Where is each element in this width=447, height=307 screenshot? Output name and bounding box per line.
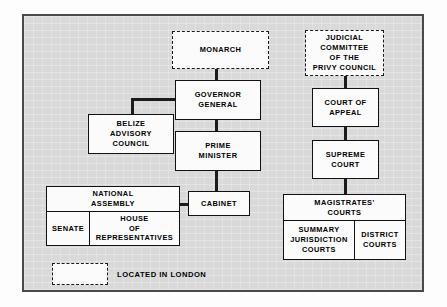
national-assembly-chambers: SENATE HOUSE OF REPRESENTATIVES [47, 212, 179, 245]
connector-belize-advisory-council-horizontal [131, 98, 177, 101]
magistrates-courts-header: MAGISTRATES' COURTS [284, 195, 405, 221]
legend: LOCATED IN LONDON [52, 263, 206, 285]
node-judicial-committee-privy-council[interactable]: JUDICIAL COMMITTEE OF THE PRIVY COUNCIL [305, 30, 384, 76]
node-governor-general-label: GOVERNOR GENERAL [193, 90, 244, 110]
node-prime-minister-label: PRIME MINISTER [197, 141, 240, 161]
node-cabinet-label: CABINET [199, 199, 239, 209]
node-national-assembly[interactable]: NATIONAL ASSEMBLY SENATE HOUSE OF REPRES… [46, 186, 180, 246]
node-belize-advisory-council-label: BELIZE ADVISORY COUNCIL [108, 119, 154, 149]
node-supreme-court-label: SUPREME COURT [324, 150, 368, 170]
national-assembly-header: NATIONAL ASSEMBLY [47, 187, 179, 212]
diagram-frame: MONARCH GOVERNOR GENERAL BELIZE ADVISORY… [22, 14, 424, 292]
legend-label: LOCATED IN LONDON [117, 270, 206, 279]
node-governor-general[interactable]: GOVERNOR GENERAL [175, 80, 261, 120]
division-summary-jurisdiction-courts[interactable]: SUMMARY JURISDICTION COURTS [284, 221, 354, 259]
legend-dashed-swatch [52, 263, 108, 285]
node-magistrates-courts[interactable]: MAGISTRATES' COURTS SUMMARY JURISDICTION… [283, 194, 406, 260]
chamber-house-of-representatives[interactable]: HOUSE OF REPRESENTATIVES [89, 212, 179, 245]
node-court-of-appeal-label: COURT OF APPEAL [322, 98, 368, 118]
connector-judicial-committee-to-court-of-appeal [344, 74, 347, 88]
node-supreme-court[interactable]: SUPREME COURT [312, 140, 379, 179]
node-court-of-appeal[interactable]: COURT OF APPEAL [312, 88, 379, 127]
connector-supreme-court-to-magistrates-courts [344, 178, 347, 194]
connector-governor-general-to-prime-minister [215, 118, 218, 132]
node-monarch[interactable]: MONARCH [172, 31, 269, 69]
node-monarch-label: MONARCH [198, 45, 244, 55]
node-cabinet[interactable]: CABINET [188, 191, 250, 216]
node-prime-minister[interactable]: PRIME MINISTER [175, 131, 261, 171]
chamber-senate[interactable]: SENATE [47, 212, 89, 245]
magistrates-courts-divisions: SUMMARY JURISDICTION COURTS DISTRICT COU… [284, 221, 405, 259]
node-judicial-committee-label: JUDICIAL COMMITTEE OF THE PRIVY COUNCIL [311, 33, 379, 72]
division-district-courts[interactable]: DISTRICT COURTS [354, 221, 405, 259]
node-belize-advisory-council[interactable]: BELIZE ADVISORY COUNCIL [88, 114, 174, 154]
diagram-canvas: MONARCH GOVERNOR GENERAL BELIZE ADVISORY… [0, 0, 447, 307]
